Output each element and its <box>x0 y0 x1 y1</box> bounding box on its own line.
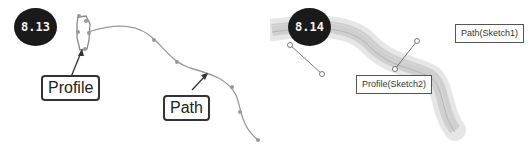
figure-8-14: 8.14 Profile(Sketch2) Path(Sketch1) <box>270 0 531 154</box>
figure-number-badge: 8.14 <box>288 8 331 46</box>
figure-number-badge: 8.13 <box>14 8 57 46</box>
path-callout: Path(Sketch1) <box>455 24 524 43</box>
path-callout: Path <box>163 95 210 121</box>
profile-callout: Profile <box>41 75 100 101</box>
profile-callout: Profile(Sketch2) <box>356 75 432 94</box>
figure-8-13: 8.13 Profile Path <box>0 0 270 154</box>
